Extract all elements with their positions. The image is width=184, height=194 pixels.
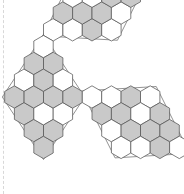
- hexagon-cell-group: [5, 0, 184, 159]
- hexagon-tiling-canvas: [0, 0, 184, 194]
- hexagon-tiling-figure: Hexagonal tiling of a hexagon by three r…: [0, 0, 184, 194]
